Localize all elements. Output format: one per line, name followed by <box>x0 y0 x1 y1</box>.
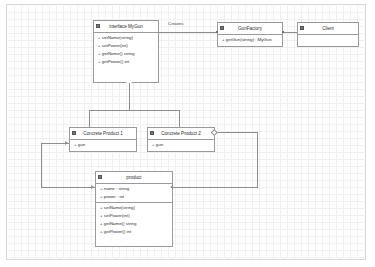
operation-row: + getName() string <box>96 220 172 228</box>
class-node-header: GunFactory <box>218 23 282 35</box>
operations-compartment: + setName(string) + setPower(int) + getN… <box>94 33 158 67</box>
class-title: Concrete Product 1 <box>83 131 123 136</box>
class-node-header: interface MyGun <box>94 21 158 33</box>
operations-compartment: + setName(string) + setPower(int) + getN… <box>96 202 172 237</box>
class-title: Concrete Product 2 <box>161 131 201 136</box>
operation-row: + setPower(int) <box>96 212 172 220</box>
edge-cp2-to-product-bottom <box>173 187 258 188</box>
class-icon <box>150 131 154 135</box>
operation-row: + getGun(string) : MyGun <box>218 36 282 44</box>
endpoint-client-icon <box>282 31 285 34</box>
arrow-into-cp1-icon <box>65 141 68 145</box>
class-node-interface-mygun[interactable]: interface MyGun + setName(string) + setP… <box>93 20 159 83</box>
class-icon <box>300 26 304 30</box>
attribute-row: + gun <box>70 141 136 149</box>
attributes-compartment: + name : string + power : int <box>96 184 172 202</box>
edge-cp2-to-product-vert <box>257 132 258 187</box>
endpoint-gunfactory-icon <box>216 31 219 34</box>
arrow-cp1-to-product-icon <box>91 185 94 189</box>
edge-inheritance-branch-right <box>179 110 180 127</box>
class-title: GunFactory <box>238 26 262 31</box>
edge-gunfactory-to-mygun <box>159 32 217 33</box>
operation-row: + getPower() int <box>94 58 158 66</box>
class-node-header: product <box>96 172 172 184</box>
arrow-cp2-to-product-icon <box>170 185 173 189</box>
operation-row: + getName() string <box>94 50 158 58</box>
class-icon <box>220 26 224 30</box>
class-node-header: Concrete Product 1 <box>70 128 136 140</box>
attribute-row: + name : string <box>96 185 172 193</box>
class-node-gun-factory[interactable]: GunFactory + getGun(string) : MyGun <box>217 22 283 47</box>
edge-cp1-to-product-vert <box>41 143 42 187</box>
class-icon <box>98 175 102 179</box>
class-title: interface MyGun <box>109 24 143 29</box>
inheritance-triangle-icon <box>126 79 132 83</box>
operations-compartment <box>298 35 358 37</box>
class-node-header: Client <box>298 23 358 35</box>
operation-row: + setPower(int) <box>94 42 158 50</box>
attributes-compartment: + gun <box>70 140 136 150</box>
edge-cp1-to-product-bottom <box>41 187 95 188</box>
class-icon <box>72 131 76 135</box>
edge-inheritance-trunk <box>129 83 130 110</box>
operation-row: + getPower() int <box>96 228 172 236</box>
edge-inheritance-branch-left <box>89 110 90 127</box>
class-node-client[interactable]: Client <box>297 22 359 47</box>
attributes-compartment: + gun <box>148 140 214 150</box>
diagram-canvas: Creates interface MyGun + setName(string… <box>6 4 366 260</box>
edge-inheritance-split <box>89 110 179 111</box>
class-node-concrete-product-1[interactable]: Concrete Product 1 + gun <box>69 127 137 152</box>
class-node-product[interactable]: product + name : string + power : int + … <box>95 171 173 247</box>
operations-compartment: + getGun(string) : MyGun <box>218 35 282 45</box>
class-title: Client <box>322 26 334 31</box>
class-node-header: Concrete Product 2 <box>148 128 214 140</box>
edge-label-creates: Creates <box>168 21 183 26</box>
edge-cp2-to-product-top <box>215 132 257 133</box>
attribute-row: + gun <box>148 141 214 149</box>
class-node-concrete-product-2[interactable]: Concrete Product 2 + gun <box>147 127 215 152</box>
class-title: product <box>126 175 141 180</box>
aggregation-diamond-cp2-icon <box>211 129 217 135</box>
class-icon <box>96 24 100 28</box>
operation-row: + setName(string) <box>94 34 158 42</box>
operation-row: + setName(string) <box>96 204 172 212</box>
attribute-row: + power : int <box>96 193 172 201</box>
